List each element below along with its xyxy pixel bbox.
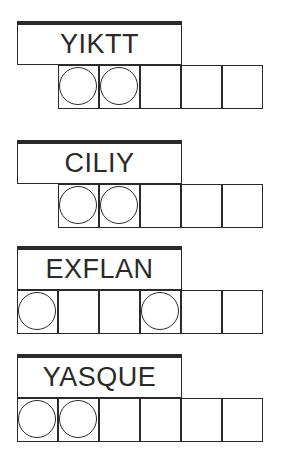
answer-cell[interactable] xyxy=(181,65,222,109)
answer-cell[interactable] xyxy=(99,398,140,442)
answer-cell[interactable] xyxy=(17,398,58,442)
circle-marker-icon xyxy=(59,400,97,438)
circle-marker-icon xyxy=(59,186,97,224)
answer-cell[interactable] xyxy=(99,184,140,228)
circle-marker-icon xyxy=(100,67,138,105)
scrambled-word: YIKTT xyxy=(17,21,182,65)
scrambled-word: EXFLAN xyxy=(17,246,182,290)
answer-cell[interactable] xyxy=(181,290,222,334)
answer-cell[interactable] xyxy=(222,290,263,334)
circle-marker-icon xyxy=(18,292,56,330)
answer-cell[interactable] xyxy=(58,398,99,442)
answer-cell[interactable] xyxy=(222,184,263,228)
answer-cell[interactable] xyxy=(140,184,181,228)
answer-cell[interactable] xyxy=(140,65,181,109)
answer-cell[interactable] xyxy=(58,290,99,334)
answer-cell[interactable] xyxy=(99,290,140,334)
answer-cell[interactable] xyxy=(140,398,181,442)
answer-cell[interactable] xyxy=(58,65,99,109)
answer-cell[interactable] xyxy=(17,290,58,334)
answer-cell[interactable] xyxy=(222,65,263,109)
circle-marker-icon xyxy=(18,400,56,438)
circle-marker-icon xyxy=(141,292,179,330)
answer-cell[interactable] xyxy=(181,184,222,228)
answer-cell[interactable] xyxy=(58,184,99,228)
answer-cell[interactable] xyxy=(99,65,140,109)
answer-cell[interactable] xyxy=(222,398,263,442)
scrambled-word: YASQUE xyxy=(17,354,182,398)
circle-marker-icon xyxy=(59,67,97,105)
answer-cell[interactable] xyxy=(181,398,222,442)
answer-cell[interactable] xyxy=(140,290,181,334)
circle-marker-icon xyxy=(100,186,138,224)
scrambled-word: CILIY xyxy=(17,140,182,184)
